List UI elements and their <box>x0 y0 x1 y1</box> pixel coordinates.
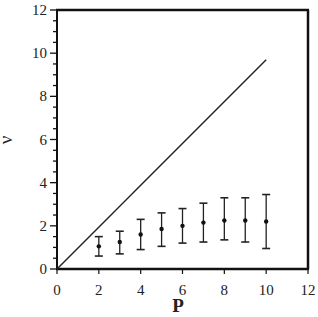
data-point <box>159 227 163 231</box>
chart: 024681012 024681012 P ν <box>0 0 318 317</box>
data-point <box>138 232 142 236</box>
x-tick-label: 0 <box>53 282 61 298</box>
x-tick-label: 12 <box>301 282 316 298</box>
x-axis-ticks: 024681012 <box>53 269 315 298</box>
error-bar-point <box>179 209 187 244</box>
data-point <box>243 218 247 222</box>
error-bar-point <box>158 213 166 246</box>
data-point <box>180 224 184 228</box>
y-tick-label: 8 <box>40 88 48 104</box>
y-axis-ticks: 024681012 <box>32 2 57 277</box>
data-point <box>201 220 205 224</box>
error-bar-point <box>241 198 249 242</box>
error-bar-point <box>116 231 124 254</box>
data-point <box>222 218 226 222</box>
y-axis-label: ν <box>0 135 16 144</box>
plot-series <box>57 60 270 269</box>
data-point <box>264 219 268 223</box>
error-bar-point <box>199 203 207 242</box>
data-point <box>97 244 101 248</box>
y-tick-label: 6 <box>40 132 48 148</box>
x-tick-label: 4 <box>137 282 145 298</box>
y-tick-label: 10 <box>32 45 47 61</box>
y-tick-label: 2 <box>40 218 48 234</box>
error-bar-point <box>262 195 270 249</box>
x-tick-label: 2 <box>95 282 103 298</box>
error-bar-point <box>95 237 103 256</box>
data-point <box>118 240 122 244</box>
y-tick-label: 4 <box>40 175 48 191</box>
y-tick-label: 0 <box>40 261 48 277</box>
x-tick-label: 10 <box>259 282 274 298</box>
error-bar-point <box>220 198 228 240</box>
error-bar-point <box>137 219 145 249</box>
x-axis-label: P <box>172 295 184 316</box>
x-tick-label: 8 <box>221 282 229 298</box>
y-tick-label: 12 <box>32 2 47 18</box>
